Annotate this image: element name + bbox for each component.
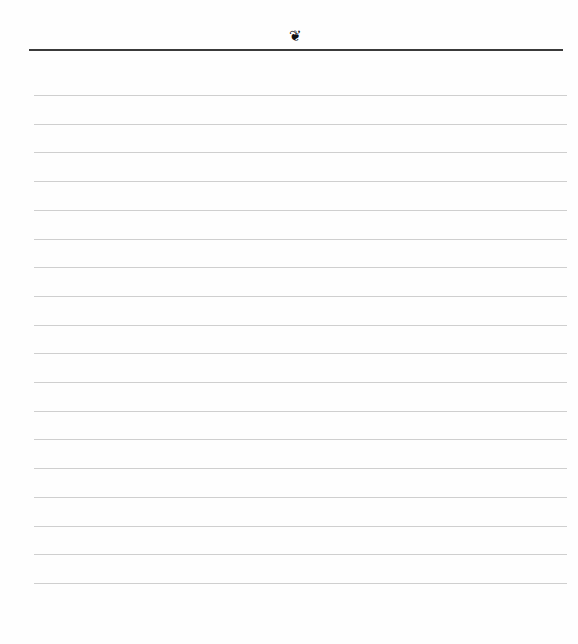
- lined-paper-page: ❦: [0, 0, 578, 644]
- ruled-lines: [0, 0, 578, 644]
- ruled-line: [34, 468, 567, 469]
- ruled-line: [34, 439, 567, 440]
- ruled-line: [34, 239, 567, 240]
- ruled-line: [34, 382, 567, 383]
- ruled-line: [34, 267, 567, 268]
- ruled-line: [34, 181, 567, 182]
- ruled-line: [34, 353, 567, 354]
- ruled-line: [34, 583, 567, 584]
- ruled-line: [34, 554, 567, 555]
- ruled-line: [34, 497, 567, 498]
- ruled-line: [34, 152, 567, 153]
- ruled-line: [34, 124, 567, 125]
- ruled-line: [34, 325, 567, 326]
- ruled-line: [34, 95, 567, 96]
- ruled-line: [34, 526, 567, 527]
- ruled-line: [34, 296, 567, 297]
- ruled-line: [34, 411, 567, 412]
- ruled-line: [34, 210, 567, 211]
